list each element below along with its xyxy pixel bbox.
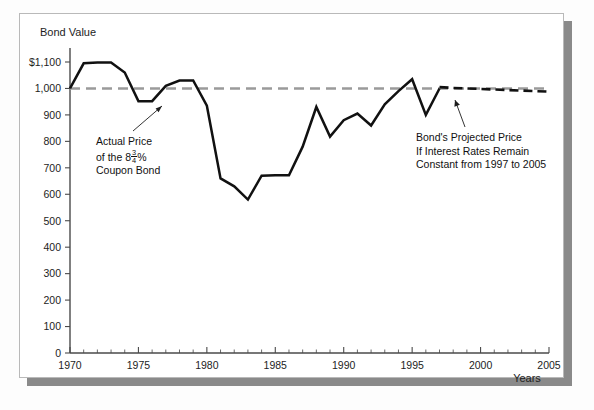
right-annotation: Bond's Projected Price If Interest Rates… [416,131,546,172]
x-tick-label: 1970 [58,359,82,371]
y-tick-label: 0 [55,347,61,359]
y-tick-label: 900 [43,109,61,121]
x-axis-tick-labels: 19701975198019851990199520002005 [58,359,561,371]
left-annotation-line-1: Actual Price [96,135,160,149]
x-tick-label: 1980 [195,359,219,371]
y-tick-label: 700 [43,162,61,174]
left-annotation-line-2-prefix: of the 8 [96,151,131,163]
y-tick-label: $1,100 [29,56,61,68]
y-axis-title: Bond Value [40,26,96,38]
right-annotation-line-3: Constant from 1997 to 2005 [416,158,546,172]
bond-value-chart-figure: 01002003004005006007008009001,000$1,100 … [0,0,594,410]
right-annotation-arrowhead [454,100,460,107]
x-axis-major-ticks [70,347,549,353]
y-tick-label: 600 [43,188,61,200]
y-tick-label: 200 [43,294,61,306]
chart-canvas: 01002003004005006007008009001,000$1,100 … [0,0,594,410]
right-annotation-line-1: Bond's Projected Price [416,131,546,145]
x-tick-label: 1985 [264,359,288,371]
x-tick-label: 2005 [537,359,561,371]
y-tick-label: 800 [43,135,61,147]
left-annotation-line-2: of the 834% [96,149,160,165]
right-annotation-line-2: If Interest Rates Remain [416,145,546,159]
x-tick-label: 1990 [332,359,356,371]
left-annotation-line-3: Coupon Bond [96,164,160,178]
x-tick-label: 2000 [469,359,493,371]
y-tick-label: 300 [43,267,61,279]
left-annotation: Actual Price of the 834% Coupon Bond [96,135,160,178]
x-tick-label: 1975 [127,359,151,371]
y-axis-ticks [65,62,70,353]
y-axis-tick-labels: 01002003004005006007008009001,000$1,100 [29,56,61,359]
y-tick-label: 500 [43,215,61,227]
y-tick-label: 100 [43,320,61,332]
y-tick-label: 1,000 [35,82,61,94]
actual-price-line [70,63,440,200]
y-tick-label: 400 [43,241,61,253]
x-axis-title: Years [513,372,541,384]
left-annotation-line-2-suffix: % [137,151,146,163]
x-tick-label: 1995 [400,359,424,371]
